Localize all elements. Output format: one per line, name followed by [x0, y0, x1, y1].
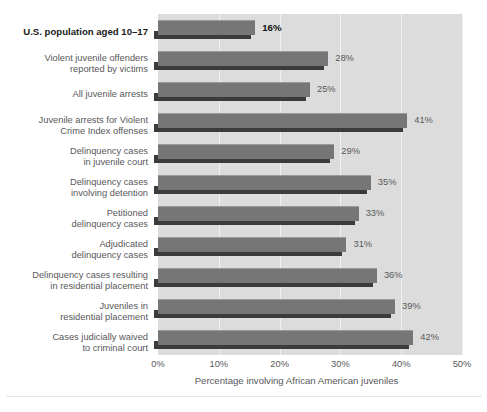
bar-row: 29% — [158, 138, 462, 169]
x-tick-label: 0% — [151, 359, 164, 369]
bar[interactable] — [158, 175, 371, 194]
bar-shadow — [154, 128, 403, 132]
bar-row: 33% — [158, 200, 462, 231]
bar-row: 31% — [158, 231, 462, 262]
bar-face — [158, 113, 407, 128]
bar-row: 28% — [158, 45, 462, 76]
bar[interactable] — [158, 20, 255, 39]
bar-face — [158, 175, 371, 190]
bar-value-label: 31% — [353, 239, 372, 249]
category-label: Violent juvenile offenders reported by v… — [0, 53, 148, 74]
plot-area: 16%28%25%41%29%35%33%31%36%39%42% — [158, 14, 462, 355]
bar-value-label: 29% — [341, 146, 360, 156]
x-axis-title: Percentage involving African American ju… — [0, 375, 487, 386]
bar-value-label: 39% — [402, 301, 421, 311]
bar-value-label: 35% — [378, 177, 397, 187]
bar-face — [158, 82, 310, 97]
bar-row: 42% — [158, 324, 462, 355]
bar-shadow — [154, 252, 342, 256]
x-tick-label: 50% — [453, 359, 472, 369]
bar-chart: 16%28%25%41%29%35%33%31%36%39%42% Percen… — [0, 0, 487, 412]
bar-face — [158, 330, 413, 345]
bar-face — [158, 299, 395, 314]
bar[interactable] — [158, 268, 377, 287]
bar-value-label: 42% — [420, 332, 439, 342]
x-tick-label: 30% — [331, 359, 350, 369]
gridline-50 — [462, 14, 463, 355]
bar[interactable] — [158, 82, 310, 101]
x-tick-label: 40% — [392, 359, 411, 369]
bar-shadow — [154, 221, 355, 225]
bar[interactable] — [158, 144, 334, 163]
bar-face — [158, 268, 377, 283]
category-label: Juveniles in residential placement — [0, 301, 148, 322]
bar-row: 25% — [158, 76, 462, 107]
x-tick-label: 10% — [209, 359, 228, 369]
bar-shadow — [154, 97, 306, 101]
bar-shadow — [154, 283, 373, 287]
bar-face — [158, 237, 346, 252]
category-label: Delinquency cases resulting in residenti… — [0, 270, 148, 291]
category-label: Delinquency cases in juvenile court — [0, 146, 148, 167]
bar-face — [158, 20, 255, 35]
bar-value-label: 28% — [335, 53, 354, 63]
bar-face — [158, 51, 328, 66]
bar-shadow — [154, 190, 367, 194]
bar-shadow — [154, 314, 391, 318]
bar[interactable] — [158, 113, 407, 132]
bar-shadow — [154, 345, 409, 349]
bar[interactable] — [158, 237, 346, 256]
bar-value-label: 36% — [384, 270, 403, 280]
category-label: Adjudicated delinquency cases — [0, 239, 148, 260]
bar-row: 16% — [158, 14, 462, 45]
category-label: Petitioned delinquency cases — [0, 208, 148, 229]
category-label: Delinquency cases involving detention — [0, 177, 148, 198]
bar-value-label: 25% — [317, 84, 336, 94]
category-label: All juvenile arrests — [0, 89, 148, 100]
bar[interactable] — [158, 299, 395, 318]
bar[interactable] — [158, 51, 328, 70]
bar[interactable] — [158, 330, 413, 349]
bar-shadow — [154, 159, 330, 163]
bar-face — [158, 206, 359, 221]
category-label: Cases judicially waived to criminal cour… — [0, 332, 148, 353]
bar[interactable] — [158, 206, 359, 225]
bar-row: 35% — [158, 169, 462, 200]
bar-face — [158, 144, 334, 159]
bar-value-label: 16% — [262, 22, 281, 33]
x-tick-label: 20% — [270, 359, 289, 369]
bar-row: 41% — [158, 107, 462, 138]
bar-shadow — [154, 66, 324, 70]
bar-value-label: 33% — [366, 208, 385, 218]
bottom-divider — [6, 396, 482, 397]
category-label: Juvenile arrests for Violent Crime Index… — [0, 115, 148, 136]
bar-row: 36% — [158, 262, 462, 293]
bar-value-label: 41% — [414, 115, 433, 125]
bar-shadow — [154, 35, 251, 39]
category-label: U.S. population aged 10–17 — [0, 27, 148, 38]
bar-row: 39% — [158, 293, 462, 324]
